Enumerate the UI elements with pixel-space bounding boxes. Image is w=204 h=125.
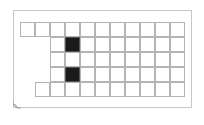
grid-cell — [95, 67, 110, 82]
grid-cell — [110, 37, 125, 52]
grid-cell — [125, 22, 140, 37]
grid-cell — [95, 52, 110, 67]
grid-cell — [140, 52, 155, 67]
grid-cell — [110, 67, 125, 82]
grid-cell — [170, 52, 185, 67]
grid-cell — [65, 22, 80, 37]
grid-cell — [155, 67, 170, 82]
grid-cell — [110, 52, 125, 67]
grid-cell — [80, 67, 95, 82]
grid-cell — [80, 22, 95, 37]
grid-cell — [140, 22, 155, 37]
grid-cell — [95, 22, 110, 37]
grid-cell — [170, 37, 185, 52]
grid-cell — [35, 22, 50, 37]
grid-cell — [50, 52, 65, 67]
grid-cell — [155, 52, 170, 67]
grid-cell — [65, 82, 80, 97]
grid-cell — [50, 22, 65, 37]
grid-cell — [50, 67, 65, 82]
grid-cell — [110, 82, 125, 97]
grid-cell — [140, 37, 155, 52]
grid-cell — [140, 82, 155, 97]
grid-cell — [80, 52, 95, 67]
grid-cell — [50, 37, 65, 52]
grid-cell — [110, 22, 125, 37]
grid-cell — [170, 22, 185, 37]
grid-cell — [50, 82, 65, 97]
page-curl-icon — [13, 101, 21, 109]
grid-cell — [125, 52, 140, 67]
grid-cell — [125, 37, 140, 52]
filled-cell — [65, 37, 80, 52]
filled-cell — [65, 67, 80, 82]
grid-cell — [35, 82, 50, 97]
grid-cell — [170, 67, 185, 82]
grid-cell — [95, 37, 110, 52]
grid-cell — [95, 82, 110, 97]
grid-cell — [80, 37, 95, 52]
grid-cell — [65, 52, 80, 67]
grid-cell — [155, 82, 170, 97]
grid-cell — [80, 82, 95, 97]
grid-cell — [20, 22, 35, 37]
grid-cell — [125, 82, 140, 97]
grid-cell — [140, 67, 155, 82]
grid-cell — [155, 22, 170, 37]
grid-cell — [155, 37, 170, 52]
grid-cell — [125, 67, 140, 82]
grid-cell — [170, 82, 185, 97]
